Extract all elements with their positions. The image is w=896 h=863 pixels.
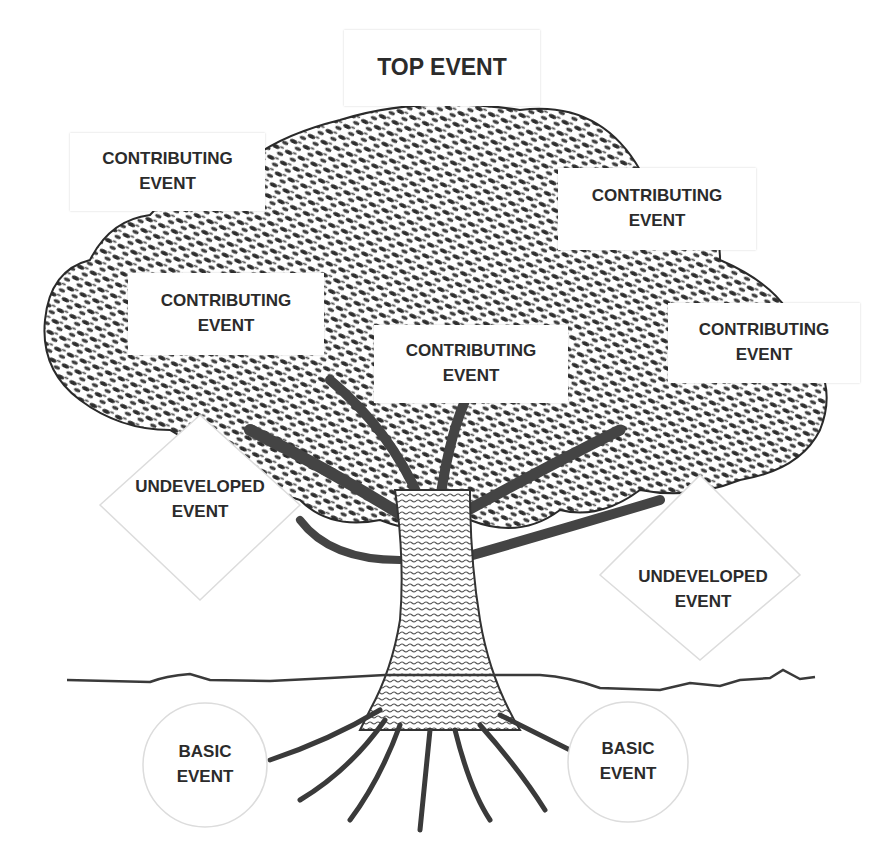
contributing-event-label-line1: CONTRIBUTING: [161, 289, 291, 314]
top-event-label: TOP EVENT: [377, 51, 507, 84]
contributing-event-box-3: CONTRIBUTING EVENT: [128, 273, 324, 355]
tree-roots: [270, 710, 590, 830]
basic-event-line2: EVENT: [600, 762, 657, 787]
basic-event-line2: EVENT: [177, 765, 234, 790]
undeveloped-event-line2: EVENT: [172, 500, 229, 525]
contributing-event-box-5: CONTRIBUTING EVENT: [668, 303, 860, 383]
undeveloped-event-line2: EVENT: [675, 590, 732, 615]
tree-illustration: [0, 0, 896, 863]
contributing-event-box-4: CONTRIBUTING EVENT: [374, 325, 568, 403]
basic-event-line1: BASIC: [602, 737, 655, 762]
undeveloped-event-line1: UNDEVELOPED: [135, 475, 264, 500]
undeveloped-event-label-left: UNDEVELOPED EVENT: [120, 470, 280, 530]
contributing-event-box-1: CONTRIBUTING EVENT: [70, 133, 265, 211]
contributing-event-label-line2: EVENT: [198, 314, 255, 339]
contributing-event-label-line1: CONTRIBUTING: [102, 147, 232, 172]
undeveloped-event-line1: UNDEVELOPED: [638, 565, 767, 590]
undeveloped-event-label-right: UNDEVELOPED EVENT: [618, 560, 788, 620]
contributing-event-label-line2: EVENT: [736, 343, 793, 368]
contributing-event-label-line2: EVENT: [629, 209, 686, 234]
top-event-box: TOP EVENT: [344, 30, 540, 106]
contributing-event-label-line1: CONTRIBUTING: [406, 339, 536, 364]
contributing-event-label-line1: CONTRIBUTING: [699, 318, 829, 343]
basic-event-label-right: BASIC EVENT: [578, 732, 678, 792]
basic-event-label-left: BASIC EVENT: [155, 735, 255, 795]
contributing-event-label-line2: EVENT: [443, 364, 500, 389]
basic-event-line1: BASIC: [179, 740, 232, 765]
contributing-event-box-2: CONTRIBUTING EVENT: [558, 168, 756, 250]
contributing-event-label-line2: EVENT: [139, 172, 196, 197]
contributing-event-label-line1: CONTRIBUTING: [592, 184, 722, 209]
